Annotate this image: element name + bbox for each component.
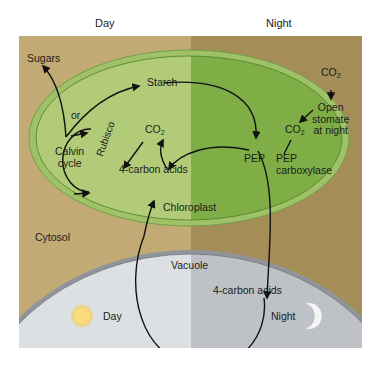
cytosol-label: Cytosol (35, 232, 70, 244)
day-header: Day (95, 17, 115, 29)
diagram-graphics (19, 36, 362, 348)
night-label: Night (271, 311, 296, 323)
pep-label: PEP (244, 153, 265, 165)
open-stomate-label: Open stomate at night (312, 102, 349, 137)
chloroplast (29, 50, 349, 226)
sugars-label: Sugars (27, 53, 60, 65)
four-carbon-acids-chloroplast-label: 4-carbon acids (119, 164, 188, 176)
chloroplast-label: Chloroplast (163, 202, 216, 214)
cam-diagram-panel: Sugars or Starch CO2 CO2 Open stomate at… (19, 36, 362, 348)
co2-pep-label: CO2 (285, 124, 305, 137)
four-carbon-acids-vacuole-label: 4-carbon acids (213, 285, 282, 297)
day-label: Day (103, 311, 122, 323)
starch-label: Starch (147, 77, 177, 89)
vacuole-label: Vacuole (171, 260, 208, 272)
sun-icon (71, 305, 93, 327)
night-header: Night (266, 17, 292, 29)
calvin-cycle-label: Calvin cycle (55, 146, 84, 169)
co2-external-label: CO2 (321, 67, 341, 80)
or-label: or (71, 110, 80, 122)
co2-chloroplast-label: CO2 (145, 124, 165, 137)
pep-carboxylase-label: PEP carboxylase (276, 153, 332, 176)
